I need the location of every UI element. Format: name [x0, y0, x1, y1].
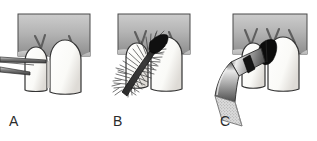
panel-c-label: C — [220, 114, 230, 128]
tooth-left — [25, 47, 47, 92]
panel-b: B — [104, 0, 210, 141]
tooth-right — [50, 40, 81, 94]
dental-illustration-figure: A — [0, 0, 317, 141]
panel-c: C — [209, 0, 315, 141]
interdental-space — [47, 60, 50, 88]
panel-a: A — [0, 0, 106, 141]
panel-a-label: A — [9, 114, 18, 128]
panel-b-label: B — [113, 114, 122, 128]
